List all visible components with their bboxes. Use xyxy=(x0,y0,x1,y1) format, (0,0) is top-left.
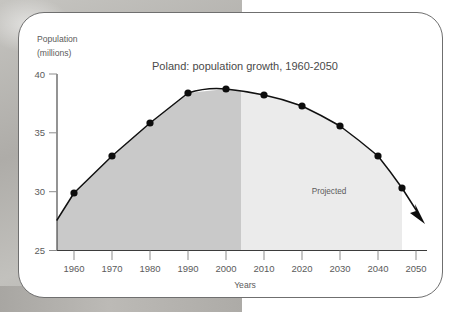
projected-annotation: Projected xyxy=(312,187,347,196)
data-point-1960 xyxy=(70,189,77,196)
data-point-2030 xyxy=(336,122,343,129)
x-tick-label-1970: 1970 xyxy=(101,263,122,274)
x-tick-label-2010: 2010 xyxy=(253,263,274,274)
x-tick-label-1990: 1990 xyxy=(177,263,198,274)
x-tick-label-1980: 1980 xyxy=(139,263,160,274)
data-point-2010 xyxy=(260,91,267,98)
historical-area-fill xyxy=(57,89,241,250)
chart-plot-area: 40 35 30 25 Population (millions) 1960 1… xyxy=(19,13,443,298)
y-tick-label-35: 35 xyxy=(34,127,45,138)
data-point-2020 xyxy=(298,102,305,109)
data-point-1970 xyxy=(108,152,115,159)
data-point-2050 xyxy=(398,184,405,191)
x-tick-label-2040: 2040 xyxy=(367,263,388,274)
x-axis-title: Years xyxy=(234,280,256,290)
population-line-chart: 40 35 30 25 Population (millions) 1960 1… xyxy=(19,13,443,298)
projected-area-fill xyxy=(241,90,402,250)
y-axis-title-line1: Population xyxy=(37,34,78,44)
data-point-1990 xyxy=(184,89,191,96)
y-tick-label-40: 40 xyxy=(34,69,45,80)
y-tick-label-25: 25 xyxy=(34,245,45,256)
data-point-2040 xyxy=(374,152,381,159)
chart-card: 40 35 30 25 Population (millions) 1960 1… xyxy=(18,12,443,298)
y-axis-title-line2: (millions) xyxy=(37,48,72,58)
x-tick-label-2050: 2050 xyxy=(405,263,426,274)
data-point-2000 xyxy=(222,85,229,92)
x-tick-label-2030: 2030 xyxy=(329,263,350,274)
x-tick-label-2000: 2000 xyxy=(215,263,236,274)
chart-title: Poland: population growth, 1960-2050 xyxy=(152,60,338,72)
data-point-1980 xyxy=(146,119,153,126)
x-tick-label-1960: 1960 xyxy=(63,263,84,274)
x-tick-label-2020: 2020 xyxy=(291,263,312,274)
y-tick-label-30: 30 xyxy=(34,186,45,197)
curve-arrow-head-icon xyxy=(410,204,425,224)
